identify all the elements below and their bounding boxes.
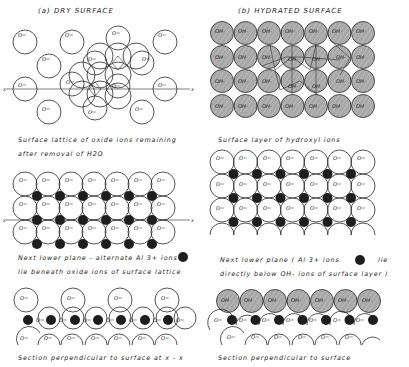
axis-x-right: x bbox=[190, 86, 194, 92]
svg-text:OH-: OH- bbox=[288, 83, 298, 89]
svg-text:O=: O= bbox=[112, 83, 120, 89]
svg-text:OH-: OH- bbox=[336, 54, 346, 60]
svg-text:O=: O= bbox=[333, 155, 341, 161]
svg-text:O=: O= bbox=[153, 317, 161, 323]
svg-text:O=: O= bbox=[111, 201, 119, 207]
svg-text:O=: O= bbox=[42, 201, 50, 207]
svg-text:O=: O= bbox=[88, 225, 96, 231]
svg-text:OH-: OH- bbox=[356, 103, 366, 109]
caption-a-middle-line2: lie beneath oxide ions of surface lattic… bbox=[18, 268, 181, 276]
svg-text:O=: O= bbox=[239, 205, 247, 211]
svg-text:O=: O= bbox=[111, 177, 119, 183]
caption-a-top-line2: after removal of H2O bbox=[18, 150, 104, 158]
svg-text:O=: O= bbox=[91, 335, 99, 341]
svg-text:OH-: OH- bbox=[268, 297, 278, 303]
svg-text:O=: O= bbox=[134, 225, 142, 231]
dry-surface-lattice bbox=[6, 26, 190, 124]
svg-text:O=: O= bbox=[263, 181, 271, 187]
svg-text:O=: O= bbox=[298, 334, 306, 340]
caption-b-bottom: Section perpendicular to surface bbox=[218, 354, 351, 362]
svg-text:O=: O= bbox=[19, 201, 27, 207]
svg-text:O=: O= bbox=[161, 295, 169, 301]
svg-text:OH-: OH- bbox=[285, 103, 295, 109]
svg-text:O=: O= bbox=[157, 225, 165, 231]
svg-text:OH-: OH- bbox=[288, 56, 298, 62]
svg-text:O=: O= bbox=[321, 334, 329, 340]
svg-text:O=: O= bbox=[345, 334, 353, 340]
svg-text:O=: O= bbox=[274, 334, 282, 340]
svg-text:O=: O= bbox=[239, 317, 247, 323]
svg-text:O=: O= bbox=[20, 295, 28, 301]
svg-text:O=: O= bbox=[88, 201, 96, 207]
svg-text:O=: O= bbox=[157, 177, 165, 183]
svg-text:O=: O= bbox=[36, 317, 44, 323]
svg-text:OH-: OH- bbox=[309, 28, 319, 34]
svg-text:O=: O= bbox=[67, 335, 75, 341]
svg-text:OH-: OH- bbox=[238, 28, 248, 34]
svg-text:O=: O= bbox=[138, 335, 146, 341]
svg-text:O=: O= bbox=[19, 225, 27, 231]
svg-text:OH-: OH- bbox=[356, 78, 366, 84]
svg-text:x: x bbox=[2, 217, 6, 223]
svg-text:O=: O= bbox=[129, 317, 137, 323]
svg-text:O=: O= bbox=[216, 155, 224, 161]
svg-text:OH-: OH- bbox=[309, 103, 319, 109]
svg-text:O=: O= bbox=[286, 155, 294, 161]
dry-surface-labels: O= O= O= O= O= O= O= O= O= O= O= O= O= O… bbox=[2, 30, 194, 115]
svg-text:O=: O= bbox=[88, 177, 96, 183]
svg-text:OH-: OH- bbox=[215, 103, 225, 109]
dry-section-al bbox=[23, 315, 173, 325]
svg-text:O=: O= bbox=[59, 317, 67, 323]
svg-text:OH-: OH- bbox=[312, 83, 322, 89]
al-ion-legend-a bbox=[178, 252, 188, 262]
svg-text:O=: O= bbox=[111, 225, 119, 231]
svg-text:OH-: OH- bbox=[336, 78, 346, 84]
svg-text:OH-: OH- bbox=[356, 54, 366, 60]
panel-a-title: (a) DRY SURFACE bbox=[38, 7, 114, 15]
svg-text:O=: O= bbox=[262, 317, 270, 323]
caption-a-top-line1: Surface lattice of oxide ions remaining bbox=[18, 136, 177, 144]
svg-text:O=: O= bbox=[135, 106, 143, 112]
svg-text:O=: O= bbox=[161, 335, 169, 341]
svg-text:O=: O= bbox=[83, 317, 91, 323]
svg-text:O=: O= bbox=[19, 177, 27, 183]
svg-text:O=: O= bbox=[142, 56, 150, 62]
svg-text:O=: O= bbox=[44, 335, 52, 341]
caption-b-middle-line1: Next lower plane ( Al 3+ ions bbox=[220, 256, 340, 264]
svg-text:O=: O= bbox=[65, 225, 73, 231]
svg-text:O=: O= bbox=[114, 335, 122, 341]
svg-text:O=: O= bbox=[65, 32, 73, 38]
svg-text:OH-: OH- bbox=[215, 28, 225, 34]
svg-text:OH-: OH- bbox=[285, 28, 295, 34]
svg-text:O=: O= bbox=[134, 201, 142, 207]
svg-text:OH-: OH- bbox=[244, 297, 254, 303]
svg-text:O=: O= bbox=[286, 317, 294, 323]
svg-text:O=: O= bbox=[65, 201, 73, 207]
al-ion-legend-b bbox=[355, 255, 365, 265]
svg-text:OH-: OH- bbox=[238, 54, 248, 60]
svg-text:OH-: OH- bbox=[238, 78, 248, 84]
svg-text:O=: O= bbox=[157, 201, 165, 207]
svg-text:O=: O= bbox=[333, 181, 341, 187]
svg-text:O=: O= bbox=[158, 82, 166, 88]
svg-text:O=: O= bbox=[114, 295, 122, 301]
svg-text:O=: O= bbox=[227, 334, 235, 340]
svg-text:OH-: OH- bbox=[221, 297, 231, 303]
svg-text:OH-: OH- bbox=[262, 54, 272, 60]
svg-text:OH-: OH- bbox=[215, 78, 225, 84]
svg-text:O=: O= bbox=[357, 205, 365, 211]
svg-text:OH-: OH- bbox=[362, 297, 372, 303]
svg-text:O=: O= bbox=[42, 177, 50, 183]
svg-text:O=: O= bbox=[106, 317, 114, 323]
svg-text:O=: O= bbox=[176, 317, 184, 323]
svg-text:O=: O= bbox=[333, 205, 341, 211]
svg-text:O=: O= bbox=[42, 106, 50, 112]
svg-text:O=: O= bbox=[310, 155, 318, 161]
svg-text:OH-: OH- bbox=[356, 28, 366, 34]
svg-text:O=: O= bbox=[42, 56, 50, 62]
svg-text:O=: O= bbox=[42, 225, 50, 231]
svg-text:O=: O= bbox=[65, 177, 73, 183]
svg-text:O=: O= bbox=[309, 317, 317, 323]
svg-text:O=: O= bbox=[310, 205, 318, 211]
svg-text:OH-: OH- bbox=[262, 103, 272, 109]
